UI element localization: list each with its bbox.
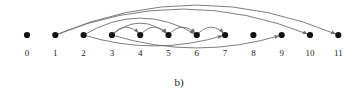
- node-label-0: 0: [25, 48, 30, 58]
- arc-arrowhead: [331, 30, 336, 34]
- arc-edges-layer: [55, 5, 338, 48]
- graph-node: [307, 32, 313, 38]
- arc-arrowhead: [303, 31, 308, 35]
- node-label-10: 10: [306, 48, 315, 58]
- graph-node: [81, 32, 87, 38]
- graph-node: [250, 32, 256, 38]
- graph-node: [194, 32, 200, 38]
- node-label-8: 8: [251, 48, 256, 58]
- graph-nodes-layer: [24, 32, 342, 38]
- graph-node: [165, 32, 171, 38]
- node-label-7: 7: [223, 48, 228, 58]
- node-label-5: 5: [166, 48, 171, 58]
- node-label-6: 6: [195, 48, 200, 58]
- node-label-11: 11: [334, 48, 343, 58]
- arc-edge: [55, 9, 310, 35]
- arc-arrowhead: [219, 28, 223, 33]
- arc-arrowhead: [134, 28, 138, 33]
- figure-caption: b): [0, 76, 358, 88]
- arc-diagram-figure: 01234567891011 b): [0, 0, 358, 100]
- graph-node: [222, 32, 228, 38]
- graph-node: [335, 32, 341, 38]
- graph-node: [109, 32, 115, 38]
- node-label-4: 4: [138, 48, 143, 58]
- node-label-9: 9: [279, 48, 284, 58]
- graph-node: [137, 32, 143, 38]
- arc-arrowhead: [218, 35, 223, 39]
- arc-arrowhead: [274, 35, 279, 39]
- graph-node: [279, 32, 285, 38]
- graph-node: [24, 32, 30, 38]
- node-label-2: 2: [81, 48, 86, 58]
- node-label-1: 1: [53, 48, 58, 58]
- node-label-3: 3: [110, 48, 115, 58]
- graph-node: [52, 32, 58, 38]
